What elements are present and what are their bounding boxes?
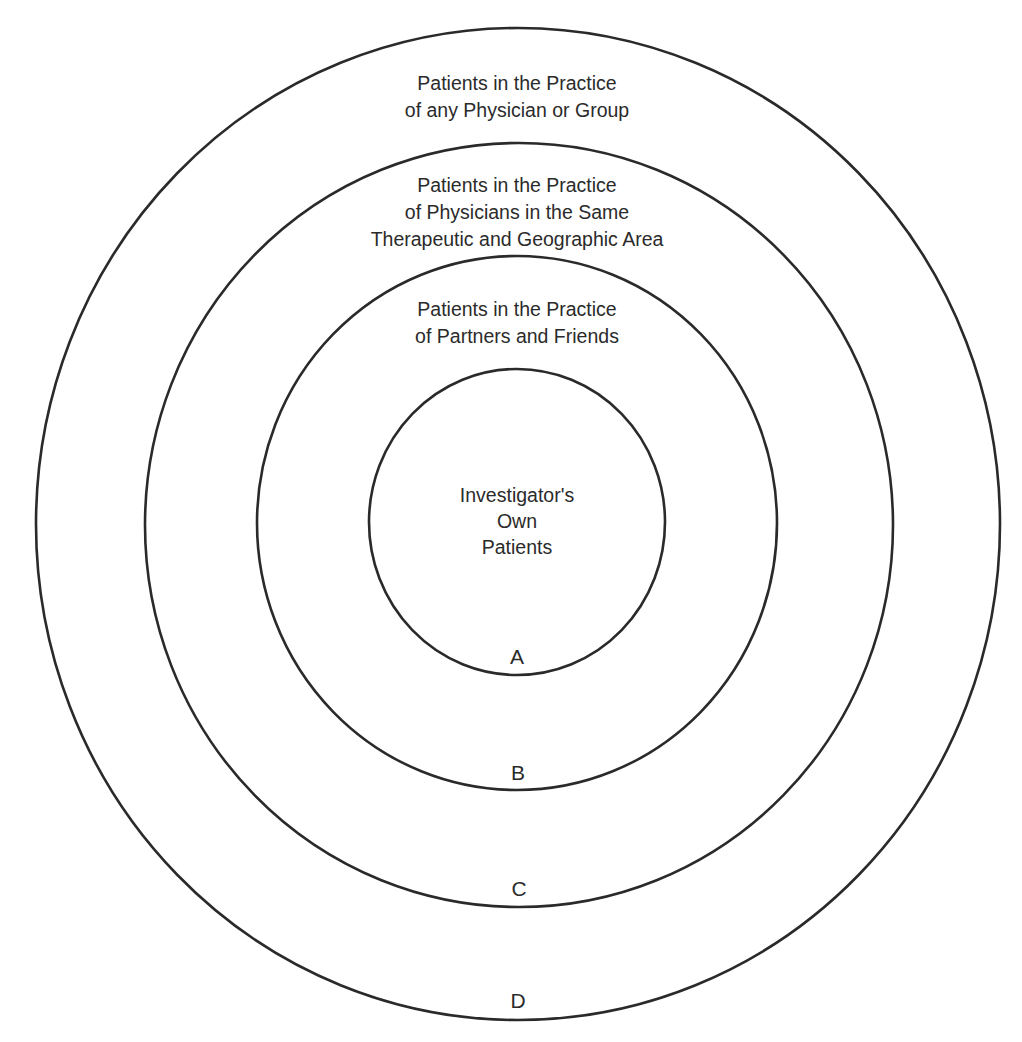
ring-a-label: Investigator's Own Patients [460, 482, 574, 560]
ring-a-letter: A [510, 646, 524, 668]
ring-d-letter: D [510, 990, 525, 1012]
ring-c-label: Patients in the Practice of Physicians i… [371, 172, 664, 253]
ring-d-label: Patients in the Practice of any Physicia… [405, 70, 629, 124]
ring-b-letter: B [511, 762, 525, 784]
ring-c-letter: C [511, 878, 526, 900]
ring-b-label: Patients in the Practice of Partners and… [415, 296, 619, 350]
